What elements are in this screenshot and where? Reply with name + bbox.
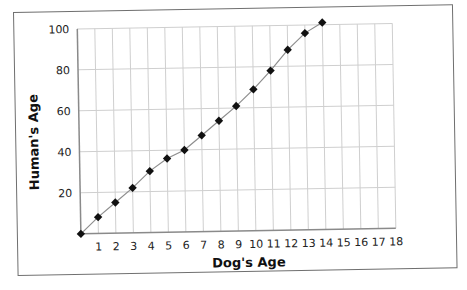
x-axis-tick-labels: 123456789101112131415161718 bbox=[95, 235, 403, 253]
vertical-grid-line bbox=[375, 24, 379, 229]
line-chart: 20406080100 123456789101112131415161718 … bbox=[14, 5, 459, 277]
vertical-grid-line bbox=[270, 26, 274, 231]
y-tick-label: 100 bbox=[48, 23, 69, 36]
x-tick-label: 14 bbox=[319, 236, 333, 249]
x-tick-label: 15 bbox=[336, 236, 350, 249]
vertical-grid-line bbox=[235, 26, 239, 231]
x-tick-label: 2 bbox=[112, 240, 119, 253]
x-tick-label: 9 bbox=[235, 238, 242, 251]
x-tick-label: 12 bbox=[284, 237, 298, 250]
chart-frame: 20406080100 123456789101112131415161718 … bbox=[13, 4, 458, 276]
data-point-marker bbox=[318, 18, 327, 27]
vertical-grid-line bbox=[165, 27, 169, 232]
vertical-grid-line bbox=[95, 29, 99, 234]
vertical-grid-line bbox=[200, 27, 204, 232]
vertical-grid-line bbox=[147, 28, 151, 233]
chart-stage: 20406080100 123456789101112131415161718 … bbox=[0, 0, 467, 290]
x-tick-label: 10 bbox=[249, 238, 263, 251]
vertical-grid-line bbox=[305, 25, 309, 230]
y-tick-label: 20 bbox=[58, 187, 72, 200]
vertical-grid-line bbox=[217, 26, 221, 231]
data-point-marker bbox=[163, 154, 172, 163]
vertical-grid-line bbox=[130, 28, 134, 233]
vertical-grid-line bbox=[340, 24, 344, 229]
x-tick-label: 3 bbox=[130, 240, 137, 253]
vertical-grid-line bbox=[287, 25, 291, 230]
vertical-grid-line bbox=[357, 24, 361, 229]
x-tick-label: 13 bbox=[301, 237, 315, 250]
y-axis-line bbox=[77, 29, 81, 234]
x-tick-label: 6 bbox=[182, 239, 189, 252]
x-axis-title: Dog's Age bbox=[212, 254, 286, 270]
x-tick-label: 16 bbox=[354, 236, 368, 249]
y-tick-label: 60 bbox=[57, 105, 71, 118]
x-tick-label: 17 bbox=[371, 236, 385, 249]
x-tick-label: 11 bbox=[266, 237, 280, 250]
x-tick-label: 5 bbox=[165, 239, 172, 252]
y-tick-label: 40 bbox=[57, 146, 71, 159]
vertical-grid-line bbox=[252, 26, 256, 231]
x-tick-label: 7 bbox=[200, 239, 207, 252]
x-tick-label: 18 bbox=[389, 235, 403, 248]
y-tick-label: 80 bbox=[56, 64, 70, 77]
x-tick-label: 8 bbox=[217, 238, 224, 251]
y-axis-tick-labels: 20406080100 bbox=[48, 23, 72, 200]
grid-lines bbox=[77, 23, 396, 233]
vertical-grid-line bbox=[182, 27, 186, 232]
x-tick-label: 1 bbox=[95, 240, 102, 253]
vertical-grid-line bbox=[322, 25, 326, 230]
y-axis-title: Human's Age bbox=[25, 94, 42, 191]
vertical-grid-line bbox=[392, 23, 396, 228]
x-tick-label: 4 bbox=[147, 240, 154, 253]
